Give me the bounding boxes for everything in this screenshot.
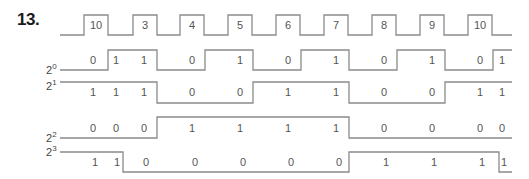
q3-value: 0 [240,156,246,168]
q2-values: 0 0 0 1 1 1 1 0 0 0 0 [90,122,505,134]
q3-value: 1 [479,156,485,168]
q1-value: 1 [90,86,96,98]
q0-value: 1 [333,54,339,66]
q3-value: 0 [192,156,198,168]
q2-value: 0 [113,122,119,134]
q0-value: 0 [90,54,96,66]
clock-pulse-label: 10 [90,19,102,31]
q0-value: 0 [381,54,387,66]
q3-value: 1 [501,156,507,168]
q1-value: 1 [113,86,119,98]
q0-label: 20 [46,62,57,76]
q3-value: 1 [114,156,120,168]
q2-label: 22 [46,130,57,144]
q2-value: 1 [237,122,243,134]
q1-value: 1 [141,86,147,98]
q2-value: 0 [381,122,387,134]
q2-value: 1 [285,122,291,134]
clock-pulse-label: 9 [429,19,435,31]
q0-value: 1 [237,54,243,66]
q3-waveform [60,152,512,172]
q2-value: 0 [499,122,505,134]
q3-value: 1 [92,156,98,168]
clock-pulse-label: 8 [381,19,387,31]
q0-value: 0 [285,54,291,66]
q1-value: 1 [499,86,505,98]
q1-value: 0 [429,86,435,98]
q0-value: 1 [499,54,505,66]
q0-value: 0 [477,54,483,66]
q3-value: 1 [383,156,389,168]
q0-value: 1 [141,54,147,66]
q0-value: 1 [429,54,435,66]
q3-value: 1 [431,156,437,168]
q2-value: 0 [141,122,147,134]
q3-value: 0 [336,156,342,168]
q1-value: 0 [189,86,195,98]
q2-value: 0 [429,122,435,134]
q0-values: 0 1 1 0 1 0 1 0 1 0 1 [90,54,505,66]
q1-value: 1 [333,86,339,98]
clock-pulse-label: 7 [333,19,339,31]
q1-value: 1 [477,86,483,98]
timing-diagram: 10 3 4 5 6 7 8 9 10 20 0 1 1 0 1 0 1 0 1… [0,0,529,179]
q2-value: 1 [333,122,339,134]
q0-value: 1 [113,54,119,66]
clock-pulse-label: 10 [474,19,486,31]
clock-pulse-label: 5 [237,19,243,31]
q3-label: 23 [46,144,57,158]
q2-value: 1 [189,122,195,134]
q1-value: 1 [285,86,291,98]
q2-value: 0 [477,122,483,134]
q0-value: 0 [189,54,195,66]
q1-values: 1 1 1 0 0 1 1 0 0 1 1 [90,86,505,98]
q1-value: 0 [237,86,243,98]
clock-pulse-label: 3 [142,19,148,31]
clock-pulse-label: 4 [189,19,195,31]
q3-values: 1 1 0 0 0 0 0 1 1 1 1 [92,156,507,168]
clock-pulse-labels: 10 3 4 5 6 7 8 9 10 [90,19,486,31]
q2-value: 0 [90,122,96,134]
q3-value: 0 [143,156,149,168]
clock-pulse-label: 6 [285,19,291,31]
q1-value: 0 [381,86,387,98]
q3-value: 0 [288,156,294,168]
q1-label: 21 [46,78,57,92]
